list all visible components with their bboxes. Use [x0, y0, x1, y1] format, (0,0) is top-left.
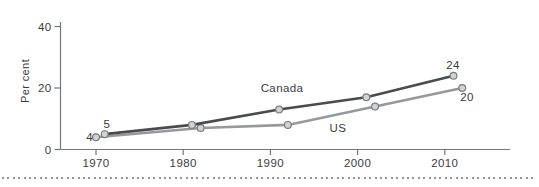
- x-tick-label: 2010: [431, 157, 458, 169]
- x-tick-label: 2000: [344, 157, 371, 169]
- y-axis-title: Per cent: [19, 59, 31, 103]
- data-point-marker: [197, 125, 204, 132]
- y-tick-label: 20: [38, 82, 52, 94]
- series-label-canada: Canada: [261, 82, 304, 94]
- x-tick-label: 1980: [170, 157, 197, 169]
- series-label-us: US: [330, 122, 347, 134]
- data-point-marker: [93, 134, 100, 141]
- y-tick-label: 40: [38, 21, 52, 33]
- point-value-label: 24: [446, 59, 460, 71]
- chart-body: 0204019701980199020002010CanadaUS452420: [38, 21, 510, 170]
- figure: Per cent 0204019701980199020002010Canada…: [0, 0, 539, 187]
- y-tick-label: 0: [45, 144, 52, 156]
- x-tick-label: 1990: [257, 157, 284, 169]
- data-point-marker: [450, 72, 457, 79]
- data-point-marker: [372, 103, 379, 110]
- line-chart: Per cent 0204019701980199020002010Canada…: [0, 0, 539, 172]
- point-value-label: 4: [86, 131, 93, 143]
- data-point-marker: [284, 122, 291, 129]
- x-tick-label: 1970: [82, 157, 109, 169]
- data-point-marker: [101, 131, 108, 138]
- point-value-label: 5: [104, 118, 111, 130]
- data-point-marker: [189, 122, 196, 129]
- data-point-marker: [276, 106, 283, 113]
- data-point-marker: [363, 94, 370, 101]
- point-value-label: 20: [460, 91, 474, 103]
- dotted-separator: [2, 177, 537, 179]
